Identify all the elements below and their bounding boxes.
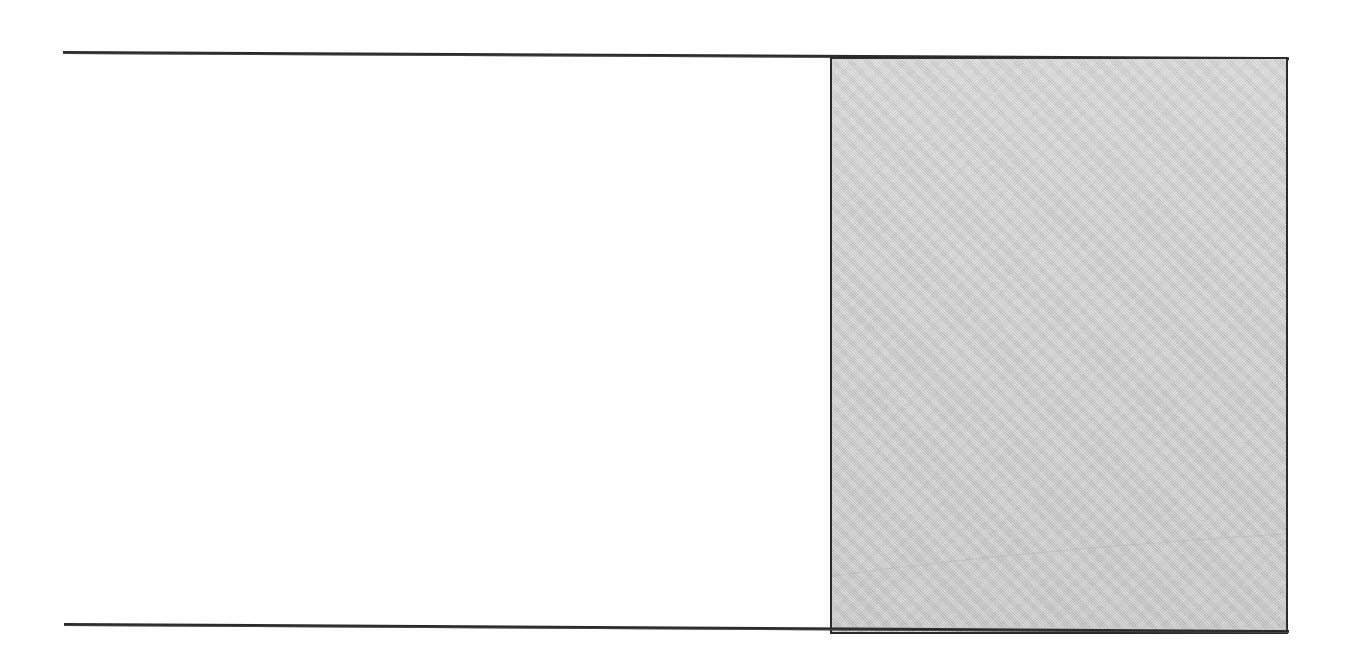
band-right-open-edge [1288,52,1289,632]
scan-artifact-icon [832,530,1286,590]
scanned-page [0,0,1349,671]
scan-artifact-curve [832,530,1286,590]
gray-block-shading [832,59,1286,632]
gray-block [830,57,1288,634]
